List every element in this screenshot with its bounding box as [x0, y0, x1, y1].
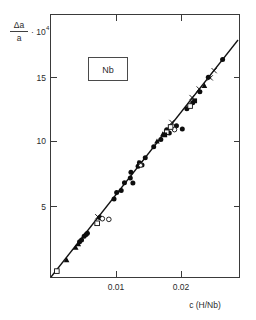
- y-axis-label-denominator: a: [17, 33, 22, 43]
- data-point-filled-circle: [128, 170, 133, 175]
- y-axis-ticks-left: [51, 78, 57, 207]
- y-axis-ticks-right: [234, 78, 240, 207]
- x-tick-label-002: 0.02: [173, 282, 190, 292]
- data-point-filled-circle: [119, 188, 124, 193]
- x-axis-label: c (H/Nb): [189, 300, 221, 310]
- data-point-open-square: [55, 269, 60, 274]
- x-tick-label-001: 0.01: [108, 282, 125, 292]
- data-point-filled-circle: [220, 57, 225, 62]
- y-tick-label-10: 10: [37, 136, 47, 146]
- y-tick-label-15: 15: [37, 73, 47, 83]
- data-point-open-square: [188, 104, 193, 109]
- data-point-filled-circle: [158, 137, 163, 142]
- data-point-filled-circle: [112, 197, 117, 202]
- y-axis-label-numerator: Δa: [14, 20, 25, 30]
- data-point-filled-circle: [130, 180, 135, 185]
- y-tick-label-5: 5: [41, 202, 46, 212]
- data-point-filled-circle: [143, 155, 148, 160]
- data-point-filled-circle: [151, 144, 156, 149]
- scatter-plot: 15 10 5 0.01 0.02 c (H/Nb) Δa a · 10 4 N…: [0, 0, 256, 320]
- data-point-filled-square: [192, 98, 197, 103]
- x-axis-ticks-bottom: [116, 271, 181, 277]
- data-point-open-square: [95, 221, 100, 226]
- data-point-filled-square: [162, 132, 167, 137]
- x-axis-ticks-top: [116, 15, 181, 21]
- data-point-filled-circle: [114, 190, 119, 195]
- y-axis-label-exponent: 4: [46, 25, 50, 31]
- data-point-open-square: [168, 125, 173, 130]
- y-axis-label: Δa a · 10 4: [10, 20, 50, 43]
- data-point-filled-circle: [180, 126, 185, 131]
- data-point-cross: [212, 68, 217, 73]
- plot-frame: [51, 15, 240, 278]
- data-point-filled-circle: [122, 180, 127, 185]
- figure-container: 15 10 5 0.01 0.02 c (H/Nb) Δa a · 10 4 N…: [0, 0, 256, 320]
- annotation-label: Nb: [102, 65, 114, 75]
- data-point-open-circle: [107, 217, 112, 222]
- data-markers-group: [55, 57, 226, 273]
- data-point-filled-circle: [85, 231, 90, 236]
- y-axis-label-multiplier: · 10: [31, 27, 46, 37]
- sample-annotation: Nb: [89, 58, 128, 81]
- data-point-open-circle: [100, 216, 105, 221]
- data-point-cross: [189, 95, 194, 100]
- data-point-filled-circle: [128, 176, 133, 181]
